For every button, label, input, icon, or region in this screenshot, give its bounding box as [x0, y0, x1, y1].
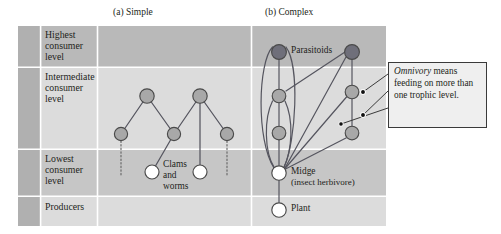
- label-midge: Midge: [291, 166, 315, 177]
- label-clams-l1: Clams: [163, 159, 189, 170]
- row-label-highest-l3: level: [45, 52, 83, 63]
- label-plant: Plant: [291, 203, 310, 214]
- node-b-mid-left-lower: [272, 126, 286, 140]
- omnivory-callout-emphasis: Omnivory: [394, 66, 431, 76]
- row-label-lowest: Lowest consumer level: [45, 154, 83, 187]
- node-a-upper-left: [140, 89, 154, 103]
- node-a-mid-center: [167, 127, 180, 140]
- node-b-midge: [272, 166, 286, 180]
- row-label-intermediate-l3: level: [45, 94, 95, 105]
- label-clams-and-worms: Clams and worms: [163, 159, 189, 191]
- label-parasitoids: Parasitoids: [291, 45, 332, 56]
- node-a-clam-left: [145, 165, 159, 179]
- omnivory-dot-3: [339, 122, 344, 127]
- node-a-mid-right: [220, 127, 233, 140]
- node-a-upper-right: [193, 89, 207, 103]
- node-b-mid-right-lower: [345, 126, 359, 140]
- node-b-mid-left-upper: [272, 89, 286, 103]
- row-label-lowest-l3: level: [45, 176, 83, 187]
- row-label-producers: Producers: [45, 202, 84, 213]
- node-b-parasitoid-right: [345, 45, 360, 60]
- node-b-plant: [272, 203, 286, 217]
- panel-header-complex: (b) Complex: [265, 7, 313, 18]
- panel-header-simple: (a) Simple: [113, 7, 153, 18]
- node-a-mid-left: [114, 127, 127, 140]
- omnivory-dot-2: [361, 113, 366, 118]
- node-b-mid-right-upper: [345, 85, 359, 99]
- label-midge-sub: (insect herbivore): [291, 177, 355, 187]
- label-clams-l3: worms: [163, 181, 189, 192]
- row-label-intermediate: Intermediate consumer level: [45, 72, 95, 105]
- omnivory-callout: Omnivory means feeding on more than one …: [388, 62, 487, 128]
- row-label-highest: Highest consumer level: [45, 30, 83, 63]
- node-b-parasitoid-left: [272, 45, 287, 60]
- figure-root: Trophic levels (a) Simple (b) Complex Hi…: [0, 0, 501, 234]
- label-clams-l2: and: [163, 170, 189, 181]
- node-a-clam-right: [193, 165, 207, 179]
- omnivory-dot-1: [361, 90, 366, 95]
